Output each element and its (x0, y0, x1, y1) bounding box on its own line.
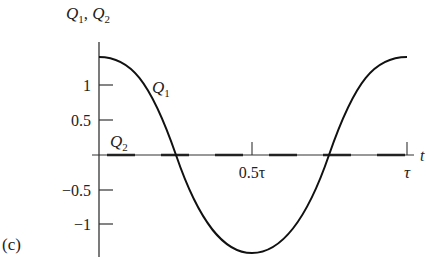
q1-curve-label: Q1 (152, 78, 170, 99)
chart: Q1, Q2 Q1 Q2 1 0.5 −0.5 −1 0.5τ τ t (c) (0, 0, 427, 257)
y-axis-label: Q1, Q2 (66, 4, 110, 25)
y-tick-label: −1 (74, 216, 91, 233)
panel-label: (c) (2, 235, 21, 254)
y-tick-label: −0.5 (62, 182, 91, 199)
q2-curve-label: Q2 (110, 132, 128, 153)
x-axis-label: t (420, 147, 425, 164)
y-tick-label: 1 (83, 77, 91, 94)
x-tick-label: 0.5τ (239, 164, 266, 181)
y-tick-label: 0.5 (71, 112, 91, 129)
x-tick-label: τ (404, 163, 411, 182)
